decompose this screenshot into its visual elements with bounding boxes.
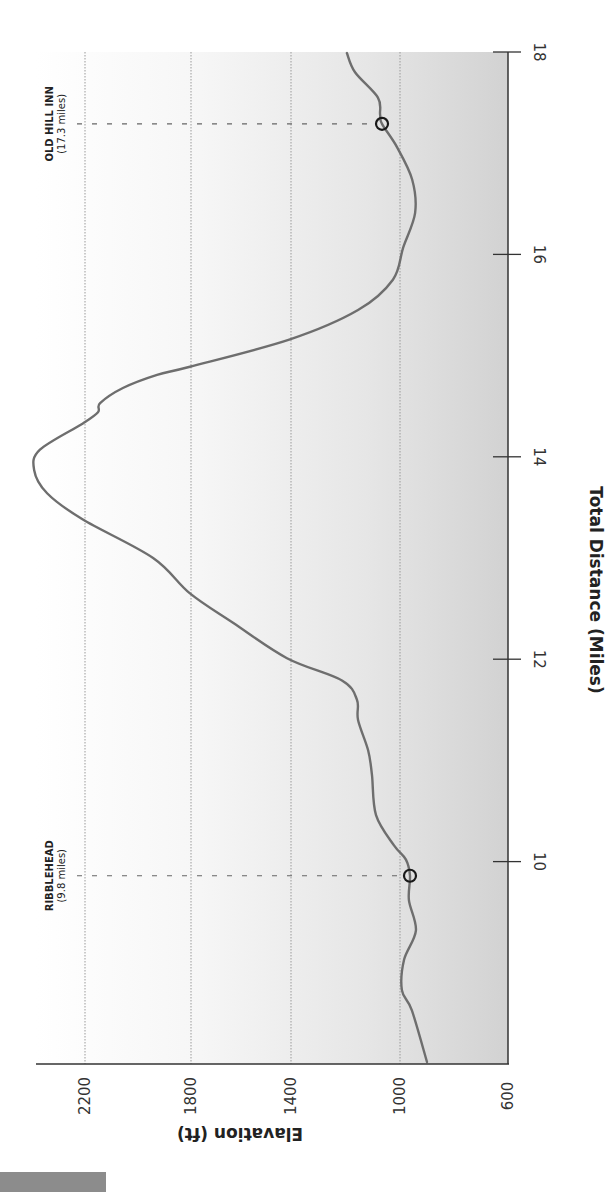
x-axis-title: Total Distance (Miles) [586,486,606,693]
distance-tick-label: 10 [530,852,548,871]
elevation-tick-label: 600 [499,1082,517,1111]
y-axis-title: Elavation (ft) [177,1124,303,1144]
elevation-tick-label: 2200 [76,1077,94,1115]
elevation-tick-label: 1000 [391,1077,409,1115]
distance-tick-label: 14 [530,447,548,466]
ribblehead-distance-label: (9.8 miles) [56,849,67,903]
old-hill-inn-distance-label: (17.3 miles) [56,94,67,154]
ribblehead-label: RIBBLEHEAD [44,840,55,911]
elevation-ticks: 6001000140018002200 [76,1077,517,1115]
plot-background [36,52,508,1064]
corner-gray-bar [0,1172,106,1192]
elevation-chart: 1012141618 6001000140018002200 Total Dis… [0,0,616,1192]
old-hill-inn-label: OLD HILL INN [44,86,55,161]
elevation-tick-label: 1800 [182,1077,200,1115]
elevation-tick-label: 1400 [282,1077,300,1115]
distance-tick-label: 16 [530,245,548,264]
distance-tick-label: 12 [530,650,548,669]
distance-tick-label: 18 [530,42,548,61]
